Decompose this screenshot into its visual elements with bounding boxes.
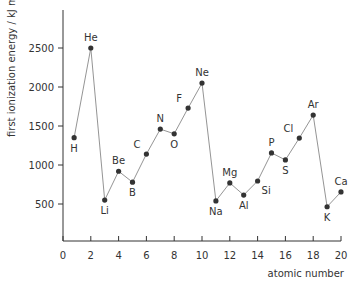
data-point-cl bbox=[297, 135, 302, 140]
data-point-ca bbox=[338, 189, 343, 194]
element-label-ca: Ca bbox=[334, 176, 347, 187]
x-tick-label: 10 bbox=[196, 250, 209, 261]
x-tick-label: 0 bbox=[60, 250, 66, 261]
element-label-n: N bbox=[157, 113, 164, 124]
data-point-s bbox=[283, 157, 288, 162]
y-tick-label: 500 bbox=[35, 199, 54, 210]
data-point-be bbox=[116, 169, 121, 174]
x-ticks: 02468101214161820 bbox=[60, 236, 348, 261]
x-tick-label: 20 bbox=[335, 250, 348, 261]
element-label-ar: Ar bbox=[308, 99, 320, 110]
element-label-p: P bbox=[268, 137, 274, 148]
x-tick-label: 14 bbox=[251, 250, 264, 261]
data-point-ne bbox=[199, 81, 204, 86]
data-point-al bbox=[241, 192, 246, 197]
x-tick-label: 18 bbox=[307, 250, 320, 261]
y-tick-label: 1500 bbox=[29, 121, 54, 132]
y-ticks: 5001000150020002500 bbox=[29, 43, 63, 210]
element-label-cl: Cl bbox=[284, 123, 294, 134]
element-label-s: S bbox=[282, 165, 288, 176]
x-tick-label: 4 bbox=[115, 250, 121, 261]
data-point-k bbox=[325, 204, 330, 209]
x-axis-title: atomic number bbox=[268, 268, 345, 279]
data-point-h bbox=[72, 135, 77, 140]
y-tick-label: 2000 bbox=[29, 82, 54, 93]
data-point-si bbox=[255, 178, 260, 183]
element-label-f: F bbox=[176, 93, 182, 104]
element-label-be: Be bbox=[112, 155, 125, 166]
element-label-na: Na bbox=[209, 206, 223, 217]
element-label-b: B bbox=[129, 187, 136, 198]
element-label-he: He bbox=[84, 32, 98, 43]
element-label-c: C bbox=[133, 139, 140, 150]
y-tick-label: 2500 bbox=[29, 43, 54, 54]
data-point-c bbox=[144, 151, 149, 156]
element-label-o: O bbox=[170, 139, 178, 150]
data-point-f bbox=[186, 105, 191, 110]
data-point-mg bbox=[227, 180, 232, 185]
element-label-ne: Ne bbox=[195, 67, 209, 78]
x-tick-label: 8 bbox=[171, 250, 177, 261]
data-point-n bbox=[158, 127, 163, 132]
x-tick-label: 6 bbox=[143, 250, 149, 261]
element-label-li: Li bbox=[101, 205, 109, 216]
element-label-si: Si bbox=[262, 185, 271, 196]
data-point-ar bbox=[311, 112, 316, 117]
x-tick-label: 12 bbox=[223, 250, 236, 261]
data-point-p bbox=[269, 150, 274, 155]
y-axis-title: first ionization energy / kJ mol⁻¹ bbox=[6, 0, 17, 137]
element-label-h: H bbox=[70, 143, 78, 154]
x-tick-label: 16 bbox=[279, 250, 292, 261]
data-point-li bbox=[102, 198, 107, 203]
element-label-al: Al bbox=[239, 200, 249, 211]
data-point-o bbox=[172, 131, 177, 136]
data-point-he bbox=[88, 45, 93, 50]
ionization-energy-chart: HHeLiBeBCNOFNeNaMgAlSiPSClArKCa 50010001… bbox=[0, 0, 356, 287]
element-label-mg: Mg bbox=[222, 167, 237, 178]
x-tick-label: 2 bbox=[88, 250, 94, 261]
data-point-b bbox=[130, 180, 135, 185]
y-tick-label: 1000 bbox=[29, 160, 54, 171]
element-label-k: K bbox=[324, 212, 331, 223]
data-point-na bbox=[213, 198, 218, 203]
